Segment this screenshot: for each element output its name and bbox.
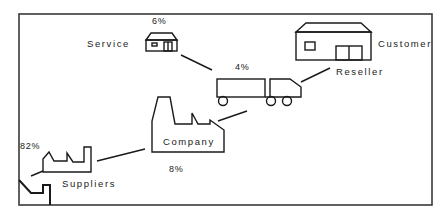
small-factory-icon <box>43 147 91 172</box>
reseller-label: Reseller <box>336 66 384 77</box>
suppliers-percent: 82% <box>20 141 40 151</box>
building-icon <box>296 23 371 60</box>
connector-service-reseller <box>181 55 212 70</box>
diagram-frame <box>19 14 432 205</box>
connector-raw-suppliers <box>31 171 43 176</box>
customer-label: Customer <box>378 38 432 49</box>
connector-suppliers-company <box>97 149 145 161</box>
service-percent: 6% <box>152 16 167 26</box>
company-percent: 8% <box>169 164 184 174</box>
suppliers-label: Suppliers <box>62 178 116 189</box>
raw-material-icon <box>19 180 50 205</box>
company-label: Company <box>163 136 215 147</box>
supply-chain-diagram: 6% Service 4% Reseller Customer Company … <box>0 0 448 216</box>
truck-icon <box>217 79 301 106</box>
connector-company-reseller <box>218 111 247 121</box>
reseller-percent: 4% <box>235 62 250 72</box>
small-house-icon <box>146 33 177 51</box>
service-label: Service <box>87 38 130 49</box>
connector-reseller-customer <box>301 68 330 82</box>
